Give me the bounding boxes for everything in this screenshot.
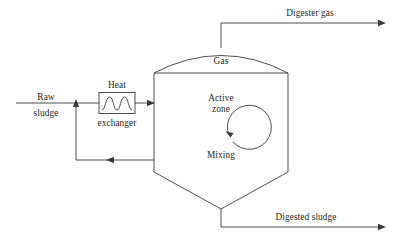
digested-sludge-label: Digested sludge — [275, 212, 336, 223]
mixing-arrowhead — [226, 131, 234, 137]
mixing-arc — [227, 105, 271, 149]
tank-cone-bottom — [154, 172, 288, 209]
recirculation-line — [76, 107, 154, 160]
process-flow-diagram: Digester gas Gas Active zone Mixing Raw … — [0, 0, 402, 241]
active-zone-label-line2: zone — [212, 104, 230, 115]
mixing-indicator — [226, 105, 272, 149]
gas-label: Gas — [214, 56, 229, 67]
raw-sludge-label-line1: Raw — [37, 92, 54, 103]
digested-sludge-arrowhead — [378, 224, 386, 230]
recirculation-arrowhead-left — [106, 157, 114, 163]
heat-exchanger-coil-icon — [102, 97, 132, 110]
gas-outlet-line — [221, 23, 378, 48]
gas-outlet-arrowhead — [378, 20, 386, 26]
active-zone-label-line1: Active — [208, 93, 233, 104]
diagram-canvas — [0, 0, 402, 241]
exchanger-label: exchanger — [97, 118, 136, 129]
heat-label: Heat — [108, 80, 126, 91]
digester-tank — [154, 56, 288, 210]
digester-gas-label: Digester gas — [286, 8, 333, 19]
mixing-label: Mixing — [207, 150, 235, 161]
gas-outlet-pipe — [221, 20, 386, 48]
raw-sludge-label-line2: sludge — [34, 108, 59, 119]
recirculation-loop — [73, 99, 154, 163]
heat-exchanger — [99, 93, 135, 114]
